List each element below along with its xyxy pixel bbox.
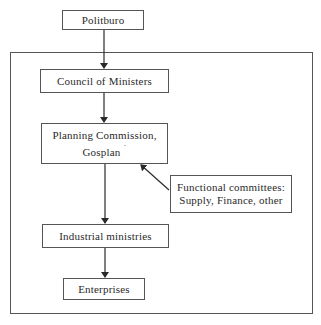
node-enterprises: Enterprises (63, 278, 145, 300)
node-politburo: Politburo (62, 10, 144, 30)
node-council-of-ministers: Council of Ministers (40, 69, 169, 93)
enterprises-label: Enterprises (78, 283, 130, 296)
node-planning-commission: Planning Commission, Gosplan ˙ (41, 123, 168, 164)
functional-label-line2: Supply, Finance, other (179, 194, 282, 207)
planning-label-line2: Gosplan ˙ (82, 142, 126, 159)
node-functional-committees: Functional committees: Supply, Finance, … (170, 175, 292, 213)
functional-label-line1: Functional committees: (177, 181, 285, 194)
node-industrial-ministries: Industrial ministries (42, 224, 169, 248)
politburo-label: Politburo (82, 14, 125, 27)
arrow-functional-to-planning (141, 165, 169, 190)
council-label: Council of Ministers (57, 75, 152, 88)
industrial-label: Industrial ministries (59, 230, 152, 243)
planning-label-line1: Planning Commission, (52, 129, 156, 142)
